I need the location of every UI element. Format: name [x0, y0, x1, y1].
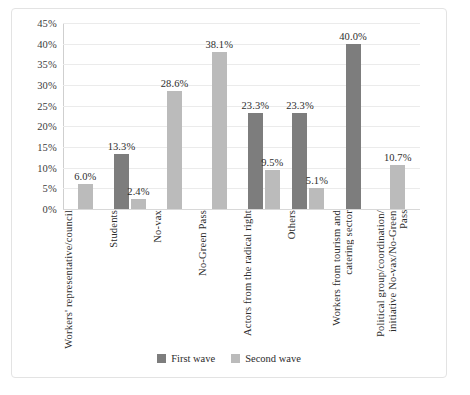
- y-axis-tick-label: 0%: [43, 204, 57, 215]
- bar-group: 23.3%9.5%: [242, 23, 287, 209]
- bar-group: 28.6%: [152, 23, 197, 209]
- bar-value-label: 23.3%: [286, 100, 314, 111]
- legend-label: First wave: [171, 353, 215, 364]
- category-label: Others: [286, 210, 331, 239]
- legend-item[interactable]: Second wave: [231, 353, 301, 364]
- bar: 10.7%: [390, 165, 405, 209]
- category-label: Workers' representative/council: [63, 210, 108, 349]
- y-axis-tick-label: 40%: [37, 38, 57, 49]
- bar: 38.1%: [212, 52, 227, 209]
- bar-value-label: 10.7%: [384, 152, 412, 163]
- y-axis-tick-label: 45%: [37, 18, 57, 29]
- category-label: No-vax: [152, 210, 197, 243]
- bar: 6.0%: [78, 184, 93, 209]
- y-axis-tick-label: 5%: [43, 183, 57, 194]
- category-axis-labels: Workers' representative/councilStudentsN…: [63, 210, 420, 350]
- bar-value-label: 5.1%: [306, 175, 328, 186]
- bar: 40.0%: [346, 44, 361, 209]
- chart-legend: First waveSecond wave: [12, 353, 446, 364]
- bar-group: 10.7%: [375, 23, 420, 209]
- bar-value-label: 28.6%: [161, 78, 189, 89]
- bar-group: 40.0%: [331, 23, 376, 209]
- category-label: Political group/coordination/ initiative…: [375, 210, 420, 350]
- bar-value-label: 2.4%: [127, 186, 149, 197]
- legend-item[interactable]: First wave: [157, 353, 215, 364]
- category-label: Students: [108, 210, 153, 248]
- bar: 5.1%: [309, 188, 324, 209]
- bar-value-label: 23.3%: [242, 100, 270, 111]
- bar-group: 23.3%5.1%: [286, 23, 331, 209]
- bar-value-label: 38.1%: [205, 39, 233, 50]
- bar-value-label: 40.0%: [339, 31, 367, 42]
- category-label: Actors from the radical right: [242, 210, 287, 336]
- bar-group: 6.0%: [63, 23, 108, 209]
- category-label: No-Green Pass: [197, 210, 242, 276]
- bar-value-label: 13.3%: [108, 141, 136, 152]
- y-axis-tick-label: 25%: [37, 100, 57, 111]
- bar-group: 13.3%2.4%: [108, 23, 153, 209]
- legend-swatch: [231, 354, 240, 363]
- y-axis-tick-label: 10%: [37, 162, 57, 173]
- bar: 9.5%: [265, 170, 280, 209]
- bar: 2.4%: [131, 199, 146, 209]
- y-axis-tick-label: 20%: [37, 121, 57, 132]
- bar-group: 38.1%: [197, 23, 242, 209]
- bar-value-label: 9.5%: [261, 157, 283, 168]
- chart-figure: 0%5%10%15%20%25%30%35%40%45% 6.0%13.3%2.…: [11, 8, 447, 378]
- legend-swatch: [157, 354, 166, 363]
- plot-area: 0%5%10%15%20%25%30%35%40%45% 6.0%13.3%2.…: [63, 23, 420, 209]
- bar: 13.3%: [114, 154, 129, 209]
- bar: 28.6%: [167, 91, 182, 209]
- category-label: Workers from tourism and catering sector: [331, 210, 376, 326]
- bar: 23.3%: [292, 113, 307, 209]
- legend-label: Second wave: [245, 353, 301, 364]
- bar-value-label: 6.0%: [74, 171, 96, 182]
- y-axis-tick-label: 15%: [37, 142, 57, 153]
- y-axis-tick-label: 35%: [37, 59, 57, 70]
- y-axis-tick-label: 30%: [37, 80, 57, 91]
